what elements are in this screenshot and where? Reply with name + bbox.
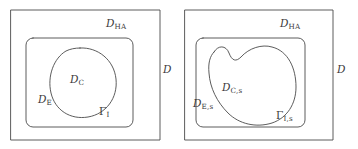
label-d-c-s-sub: C,s: [231, 86, 243, 95]
left-panel-graphics: [11, 10, 160, 140]
label-d-c-base: D: [70, 73, 79, 85]
label-d-e-sub: E: [47, 98, 52, 107]
label-d-outer-base: D: [163, 63, 172, 75]
label-d-e: DE: [38, 94, 52, 105]
label-d-outer-s-base: D: [337, 63, 346, 75]
label-d-e-s-sub: E,s: [202, 102, 214, 111]
left-outer-rect: [11, 10, 160, 140]
label-d-outer-s: D: [337, 64, 346, 75]
label-gamma-i-s-sub: I,s: [283, 114, 292, 123]
label-d-e-base: D: [38, 93, 47, 105]
label-d-e-s-base: D: [193, 97, 202, 109]
label-d-ha: DHA: [106, 18, 126, 29]
geometry-figure: D DHA DC DE ΓI D DHA DC,s DE,s ΓI,s: [0, 0, 358, 149]
label-d-c: DC: [70, 74, 84, 85]
label-d-ha-sub: HA: [115, 22, 127, 31]
label-d-c-sub: C: [79, 78, 85, 87]
label-d-outer: D: [163, 64, 172, 75]
label-d-ha-s-sub: HA: [289, 22, 301, 31]
right-outer-rect: [185, 10, 333, 140]
label-gamma-i-sub: I: [106, 110, 109, 119]
label-d-c-s-base: D: [222, 81, 231, 93]
label-gamma-i: ΓI: [99, 106, 109, 117]
label-d-ha-s: DHA: [280, 18, 300, 29]
label-d-ha-base: D: [106, 17, 115, 29]
label-d-e-s: DE,s: [193, 98, 213, 109]
label-d-c-s: DC,s: [222, 82, 242, 93]
label-gamma-i-s: ΓI,s: [276, 110, 293, 121]
label-d-ha-s-base: D: [280, 17, 289, 29]
figure-canvas: [0, 0, 358, 149]
right-panel-graphics: [185, 10, 333, 140]
